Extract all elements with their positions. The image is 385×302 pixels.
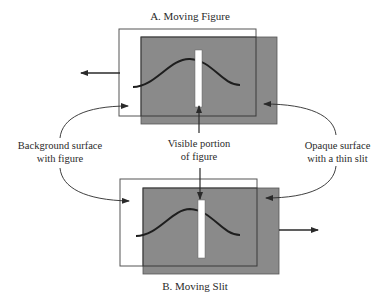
panel-b bbox=[120, 179, 318, 274]
opaque-surface-label-line2: with a thin slit bbox=[290, 152, 385, 165]
visible-portion-label-line2: of figure bbox=[149, 150, 249, 163]
background-arrow-lower-icon bbox=[60, 168, 129, 201]
visible-portion-label: Visible portion of figure bbox=[149, 137, 249, 163]
opaque-surface-a bbox=[141, 37, 277, 124]
slit-b bbox=[198, 200, 205, 258]
slit-a bbox=[195, 50, 202, 107]
panel-b-title: B. Moving Slit bbox=[130, 280, 260, 293]
moving-slit-diagram: A. Moving Figure B. Moving Slit Backgrou… bbox=[0, 0, 385, 302]
background-surface-label: Background surface with figure bbox=[0, 139, 120, 165]
opaque-surface-label: Opaque surface with a thin slit bbox=[290, 139, 385, 165]
opaque-surface-label-line1: Opaque surface bbox=[290, 139, 385, 152]
panel-a-title: A. Moving Figure bbox=[120, 10, 260, 23]
background-arrow-upper-icon bbox=[60, 106, 128, 138]
background-surface-label-line1: Background surface bbox=[0, 139, 120, 152]
visible-portion-label-line1: Visible portion bbox=[149, 137, 249, 150]
background-surface-label-line2: with figure bbox=[0, 152, 120, 165]
panel-a bbox=[81, 29, 277, 124]
opaque-surface-b bbox=[143, 188, 279, 274]
